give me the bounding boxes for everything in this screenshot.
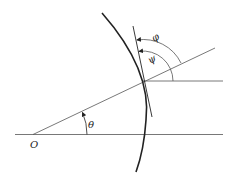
- origin-label: O: [30, 139, 38, 150]
- polar-angle-diagram: O θ ψ φ: [0, 0, 234, 178]
- curve: [102, 13, 147, 172]
- psi-arc: [139, 51, 173, 81]
- theta-arc: [83, 113, 88, 135]
- phi-label: φ: [149, 31, 161, 44]
- diagram-canvas: O θ ψ φ: [0, 0, 234, 178]
- theta-label: θ: [88, 119, 94, 130]
- radius-ray: [33, 48, 215, 135]
- psi-label: ψ: [145, 52, 157, 66]
